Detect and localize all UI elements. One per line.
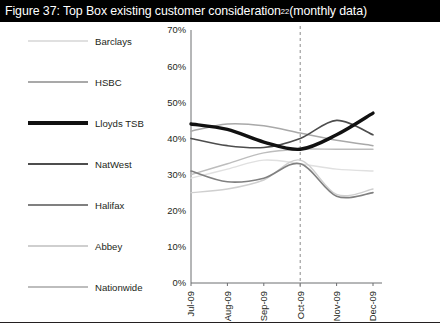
legend-label-abbey: Abbey (95, 241, 122, 252)
figure-container: Figure 37: Top Box existing customer con… (0, 0, 440, 330)
page-title-suffix: (monthly data) (289, 4, 367, 18)
legend-swatch-natwest (28, 163, 88, 165)
legend-label-hsbc: HSBC (95, 77, 122, 88)
chart-legend: Barclays HSBC Lloyds TSB NatWest Halifax… (0, 24, 168, 292)
chart-series-group (191, 113, 373, 198)
footer-rule (0, 322, 440, 323)
x-tick-label: Jul-09 (185, 291, 196, 317)
y-tick-label: 40% (167, 133, 186, 144)
series-line-halifax (191, 163, 373, 198)
legend-item-abbey[interactable]: Abbey (0, 237, 168, 255)
legend-swatch-lloyds-tsb (28, 121, 88, 124)
legend-label-nationwide: Nationwide (95, 282, 142, 293)
x-axis-tick-labels: Jul-09Aug-09Sep-09Oct-09Nov-09Dec-09 (185, 291, 378, 321)
y-axis-tick-labels: 0%10%20%30%40%50%60%70% (167, 24, 186, 288)
y-tick-label: 20% (167, 205, 186, 216)
series-line-abbey (191, 160, 373, 196)
legend-item-barclays[interactable]: Barclays (0, 32, 168, 50)
legend-swatch-abbey (28, 245, 88, 246)
legend-item-natwest[interactable]: NatWest (0, 155, 168, 173)
y-tick-label: 0% (172, 277, 186, 288)
x-tick-label: Sep-09 (258, 291, 269, 321)
legend-label-lloyds-tsb: Lloyds TSB (95, 118, 144, 129)
title-footnote-marker: 22 (281, 7, 289, 16)
x-tick-label: Nov-09 (331, 291, 342, 321)
page-title: Figure 37: Top Box existing customer con… (0, 4, 281, 18)
y-tick-label: 70% (167, 24, 186, 35)
legend-swatch-nationwide (28, 286, 88, 287)
legend-item-halifax[interactable]: Halifax (0, 196, 168, 214)
legend-label-barclays: Barclays (95, 36, 132, 47)
legend-item-lloyds-tsb[interactable]: Lloyds TSB (0, 114, 168, 132)
legend-swatch-halifax (28, 204, 88, 206)
y-tick-label: 50% (167, 97, 186, 108)
y-tick-label: 30% (167, 169, 186, 180)
chart-svg: 0%10%20%30%40%50%60%70% Jul-09Aug-09Sep-… (150, 24, 440, 324)
legend-swatch-hsbc (28, 81, 88, 83)
y-tick-label: 60% (167, 61, 186, 72)
legend-swatch-barclays (28, 40, 88, 41)
y-tick-label: 10% (167, 241, 186, 252)
legend-label-halifax: Halifax (95, 200, 124, 211)
line-chart: 0%10%20%30%40%50%60%70% Jul-09Aug-09Sep-… (150, 24, 440, 324)
x-tick-label: Oct-09 (295, 291, 306, 319)
chart-axes (191, 30, 382, 286)
x-tick-label: Dec-09 (367, 291, 378, 321)
legend-label-natwest: NatWest (95, 159, 132, 170)
legend-item-hsbc[interactable]: HSBC (0, 73, 168, 91)
legend-item-nationwide[interactable]: Nationwide (0, 278, 168, 296)
x-tick-label: Aug-09 (222, 291, 233, 321)
figure-title-bar: Figure 37: Top Box existing customer con… (0, 0, 440, 22)
